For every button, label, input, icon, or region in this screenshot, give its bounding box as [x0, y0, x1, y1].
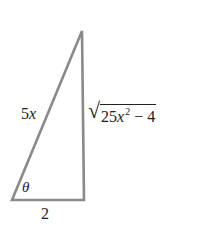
hypotenuse-coefficient: 5: [21, 105, 29, 122]
radicand-expression: 25x2 − 4: [100, 104, 156, 125]
vertical-side-label: √ 25x2 − 4: [88, 101, 156, 125]
radicand-constant: 4: [147, 108, 155, 125]
radicand-coefficient: 25: [101, 108, 117, 125]
radicand-variable: x: [117, 108, 124, 125]
hypotenuse-variable: x: [29, 105, 36, 122]
base-side-label: 2: [41, 206, 49, 222]
hypotenuse-label: 5x: [21, 106, 36, 122]
radicand-operator: −: [130, 108, 147, 125]
square-root-icon: √: [88, 100, 100, 122]
angle-theta-label: θ: [22, 180, 29, 195]
